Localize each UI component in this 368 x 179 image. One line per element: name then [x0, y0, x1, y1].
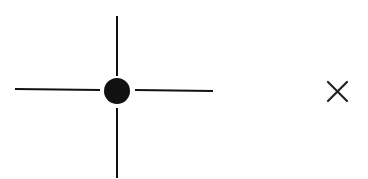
crosshair-icon [15, 16, 213, 178]
diagram-canvas [0, 0, 368, 179]
crosshair-left-line [15, 89, 100, 90]
close-icon [328, 82, 347, 101]
crosshair-center-dot [104, 78, 130, 104]
crosshair-right-line [135, 90, 213, 91]
